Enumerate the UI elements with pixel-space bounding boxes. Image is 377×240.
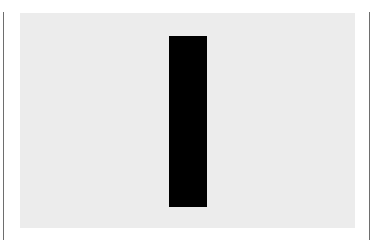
black-vertical-bar <box>169 36 207 207</box>
right-border-line <box>369 12 370 240</box>
gray-panel <box>20 13 355 228</box>
left-border-line <box>3 12 4 240</box>
